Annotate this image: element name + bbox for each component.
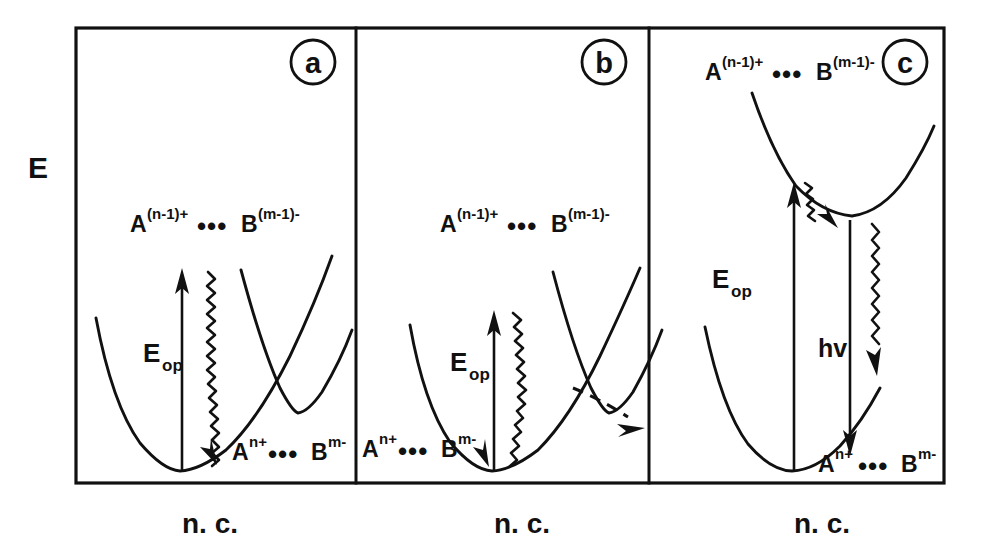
panel-a: a A (n-1)+ ••• B (m-1)- E op bbox=[96, 40, 352, 539]
panel-b-ground-state-label: A n+ ••• B m- bbox=[362, 430, 476, 466]
panel-c-excited-charge-b: (m-1)- bbox=[833, 53, 875, 70]
panel-c-ground-state-curve bbox=[705, 327, 880, 471]
panel-c-excited-bridge: ••• bbox=[772, 59, 802, 89]
panel-a-transition-label: E op bbox=[143, 338, 183, 375]
panel-b-eop-symbol: E bbox=[450, 347, 467, 377]
panel-b-ground-species-b: B bbox=[441, 436, 458, 462]
potential-energy-diagram: E a A (n-1)+ ••• B (m-1)- bbox=[0, 0, 986, 560]
figure-frame bbox=[76, 28, 944, 483]
panel-a-eop-symbol: E bbox=[143, 338, 160, 368]
panel-c-ground-bridge: ••• bbox=[858, 451, 888, 481]
panel-b-excited-bridge: ••• bbox=[507, 211, 537, 241]
panel-b-transition-label: E op bbox=[450, 347, 490, 384]
panel-b-escape-arrow-head bbox=[617, 424, 645, 437]
panel-c-excited-charge-a: (n-1)+ bbox=[722, 53, 763, 70]
panel-c-emission-label: hv bbox=[818, 334, 847, 362]
panel-b-excited-charge-b: (m-1)- bbox=[568, 205, 610, 222]
panel-b-ground-bridge: ••• bbox=[398, 436, 428, 466]
panel-b-excited-species-a: A bbox=[440, 211, 457, 237]
panel-b-excited-charge-a: (n-1)+ bbox=[457, 205, 498, 222]
panel-c-excited-state-label: A (n-1)+ ••• B (m-1)- bbox=[705, 53, 875, 89]
panel-a-ground-charge-b: m- bbox=[328, 433, 346, 450]
panel-c-transition-label: E op bbox=[712, 264, 752, 301]
panel-a-excited-state-label: A (n-1)+ ••• B (m-1)- bbox=[130, 205, 300, 241]
panel-b-eop-subscript: op bbox=[469, 365, 490, 384]
panel-a-ground-species-a: A bbox=[232, 439, 249, 465]
panel-b-ground-charge-b: m- bbox=[458, 430, 476, 447]
panel-c-ground-charge-a: n+ bbox=[835, 445, 853, 462]
panel-c-excited-state-curve bbox=[752, 93, 934, 216]
panel-c-ground-species-b: B bbox=[901, 451, 918, 477]
panel-c-nonradiative-arrow-head bbox=[866, 347, 881, 376]
panel-c-ground-species-a: A bbox=[818, 451, 835, 477]
panel-a-relaxation-wavy-line bbox=[207, 272, 219, 466]
panel-c-eop-symbol: E bbox=[712, 264, 729, 294]
panel-c-eop-subscript: op bbox=[731, 282, 752, 301]
panel-a-badge-label: a bbox=[305, 47, 322, 79]
panel-c-excited-species-a: A bbox=[705, 59, 722, 85]
panel-a-excited-species-b: B bbox=[241, 211, 258, 237]
panel-b-ground-charge-a: n+ bbox=[379, 430, 397, 447]
panel-a-eop-subscript: op bbox=[162, 356, 183, 375]
panel-a-excited-bridge: ••• bbox=[197, 211, 227, 241]
panel-a-ground-species-b: B bbox=[311, 439, 328, 465]
panel-c-x-axis-label: n. c. bbox=[794, 508, 850, 539]
panel-a-ground-state-label: A n+ ••• B m- bbox=[232, 433, 346, 469]
panel-b-excited-state-label: A (n-1)+ ••• B (m-1)- bbox=[440, 205, 610, 241]
panel-c-badge-label: c bbox=[897, 47, 913, 79]
panel-a-excited-species-a: A bbox=[130, 211, 147, 237]
panel-b-x-axis-label: n. c. bbox=[494, 508, 550, 539]
panel-b-badge-label: b bbox=[595, 47, 613, 79]
figure-root: E a A (n-1)+ ••• B (m-1)- bbox=[0, 0, 986, 560]
panel-c-ground-charge-b: m- bbox=[918, 445, 936, 462]
panel-a-excited-charge-b: (m-1)- bbox=[258, 205, 300, 222]
panel-c-excited-species-b: B bbox=[816, 59, 833, 85]
panel-a-x-axis-label: n. c. bbox=[182, 508, 238, 539]
panel-a-ground-charge-a: n+ bbox=[249, 433, 267, 450]
panel-c-ground-state-label: A n+ ••• B m- bbox=[818, 445, 936, 481]
panel-b-ground-species-a: A bbox=[362, 436, 379, 462]
panel-b: b A (n-1)+ ••• B (m-1)- E op bbox=[362, 40, 662, 539]
panel-b-relaxation-wavy-line bbox=[509, 313, 526, 467]
panel-c-nonradiative-wavy-line bbox=[872, 224, 879, 344]
panel-a-excited-charge-a: (n-1)+ bbox=[147, 205, 188, 222]
panel-b-excited-species-b: B bbox=[551, 211, 568, 237]
panel-c: c A (n-1)+ ••• B (m-1)- E op bbox=[705, 40, 936, 539]
y-axis-label: E bbox=[28, 151, 48, 184]
panel-a-ground-bridge: ••• bbox=[268, 439, 298, 469]
panel-c-excited-relaxation-arrow-head bbox=[817, 204, 838, 228]
